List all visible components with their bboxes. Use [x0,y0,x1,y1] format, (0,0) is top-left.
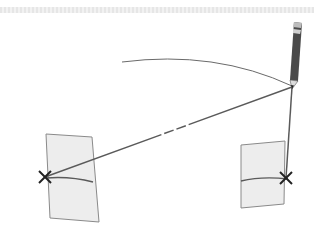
drawn-arc [122,59,292,86]
pencil-icon [290,22,302,89]
line-to-right-mark [286,87,292,178]
construction-diagram [0,0,314,234]
right-paper-sheet [241,141,285,208]
